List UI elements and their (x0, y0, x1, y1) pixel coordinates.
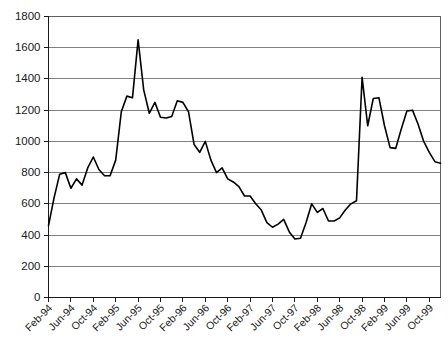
x-axis-tick-label: Oct-99 (404, 301, 435, 332)
y-axis-tick-label: 600 (21, 197, 40, 209)
data-series-group (49, 40, 441, 239)
y-axis-tick-label: 1200 (15, 104, 41, 116)
series-line-path (49, 40, 441, 239)
y-axis-tick-label: 1800 (15, 10, 41, 22)
gridlines-group (49, 17, 441, 267)
y-axis-tick-label: 1000 (15, 135, 41, 147)
axis-lines (49, 16, 441, 298)
plot-frame (49, 17, 441, 298)
y-axis-tick-label: 400 (21, 229, 40, 241)
plot-area-border (49, 17, 441, 298)
y-axis-tick-label: 1400 (15, 72, 41, 84)
y-axis-tick-label: 200 (21, 260, 40, 272)
x-axis-tick-labels: Feb-94Jun-94Oct-94Feb-95Jun-95Oct-95Feb-… (22, 301, 435, 333)
y-axis-tick-label: 1600 (15, 41, 41, 53)
y-axis-tick-label: 800 (21, 166, 40, 178)
line-chart: 020040060080010001200140016001800 Feb-94… (0, 0, 448, 351)
y-axis-tick-label: 0 (34, 291, 40, 303)
y-axis-tick-labels: 020040060080010001200140016001800 (15, 10, 41, 303)
chart-container: 020040060080010001200140016001800 Feb-94… (0, 0, 448, 351)
